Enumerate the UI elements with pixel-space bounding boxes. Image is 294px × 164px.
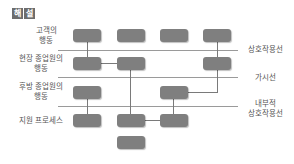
backstage-action-box xyxy=(73,86,101,99)
internal-interaction-line-label: 내부적 상호작용선 xyxy=(240,99,290,119)
onstage-action-box xyxy=(73,57,101,70)
internal-interaction-line xyxy=(58,106,238,107)
row-label-customer: 고객의 행동 xyxy=(26,26,66,46)
connector-r3-c3-c4 xyxy=(188,92,218,93)
visibility-line-label: 가시선 xyxy=(240,73,290,83)
connector-c3-r3-r4 xyxy=(173,99,174,114)
interaction-line xyxy=(58,50,238,51)
connector-c2-r2-r4 xyxy=(130,70,131,114)
line-label-text: 상호작용선 xyxy=(240,45,290,55)
badge-char-1: 해 xyxy=(12,8,23,19)
support-process-box xyxy=(117,136,145,149)
interaction-line-label: 상호작용선 xyxy=(240,45,290,55)
onstage-action-box xyxy=(203,57,231,70)
row-label-support: 지원 프로세스 xyxy=(12,116,70,126)
connector-c4-r1-r2 xyxy=(217,42,218,57)
connector-c1-r3-r4 xyxy=(87,99,88,114)
connector-c1-r1-r2 xyxy=(87,42,88,57)
support-process-box xyxy=(73,114,101,127)
customer-action-box xyxy=(160,29,188,42)
line-label-text: 상호작용선 xyxy=(240,109,290,119)
row-label-line: 행동 xyxy=(26,36,66,46)
explanation-badge: 해 설 xyxy=(12,8,35,19)
row-label-line: 행동 xyxy=(12,64,70,74)
customer-action-box xyxy=(203,29,231,42)
support-process-box xyxy=(117,114,145,127)
badge-char-2: 설 xyxy=(24,8,35,19)
onstage-action-box xyxy=(117,57,145,70)
row-label-onstage: 현장 종업원의 행동 xyxy=(12,54,70,74)
connector-r2-c1-c2 xyxy=(101,63,117,64)
row-label-line: 고객의 xyxy=(26,26,66,36)
backstage-action-box xyxy=(160,86,188,99)
connector-r4-c2-c3 xyxy=(145,120,160,121)
customer-action-box xyxy=(73,29,101,42)
customer-action-box xyxy=(117,29,145,42)
row-label-line: 행동 xyxy=(12,92,70,102)
line-label-text: 내부적 xyxy=(240,99,290,109)
line-label-text: 가시선 xyxy=(240,73,290,83)
connector-c4-r2-r3 xyxy=(217,70,218,93)
row-label-line: 지원 프로세스 xyxy=(12,116,70,126)
visibility-line xyxy=(58,77,238,78)
row-label-backstage: 후방 종업원의 행동 xyxy=(12,82,70,102)
row-label-line: 후방 종업원의 xyxy=(12,82,70,92)
support-process-box xyxy=(160,114,188,127)
row-label-line: 현장 종업원의 xyxy=(12,54,70,64)
